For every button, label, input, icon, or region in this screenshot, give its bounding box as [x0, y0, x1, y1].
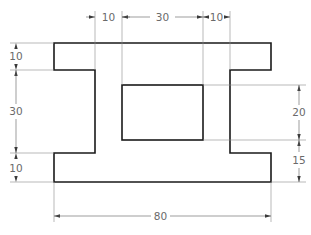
arrow-icon: [224, 15, 230, 18]
dim-label-top-center: 30: [156, 11, 169, 23]
arrow-icon: [89, 15, 95, 18]
right-dimensions: 20 15: [203, 85, 306, 182]
dim-label-top-right: 10: [210, 11, 223, 23]
arrow-icon: [14, 64, 17, 70]
dim-label-left-bottom: 10: [9, 162, 22, 174]
top-dimensions: 10 30 10: [86, 11, 230, 85]
dim-label-bottom: 80: [154, 210, 167, 222]
arrow-icon: [14, 43, 17, 49]
arrow-icon: [14, 176, 17, 182]
part-outline: [54, 43, 271, 182]
inner-cutout: [122, 85, 203, 140]
dim-label-top-left: 10: [102, 11, 115, 23]
arrow-icon: [203, 15, 209, 18]
dim-label-right-bottom: 15: [292, 154, 305, 166]
dim-label-left-middle: 30: [9, 105, 22, 117]
arrow-icon: [14, 147, 17, 153]
left-dimensions: 10 30 10: [9, 43, 54, 182]
arrow-icon: [197, 15, 203, 18]
arrow-icon: [265, 214, 271, 217]
dim-label-right-top: 20: [292, 106, 305, 118]
arrow-icon: [297, 176, 300, 182]
arrow-icon: [14, 153, 17, 159]
arrow-icon: [297, 134, 300, 140]
dim-label-left-top: 10: [9, 50, 22, 62]
bottom-dimension: 80: [54, 182, 271, 222]
technical-drawing: 10 30 10 10 30 10: [0, 0, 311, 235]
